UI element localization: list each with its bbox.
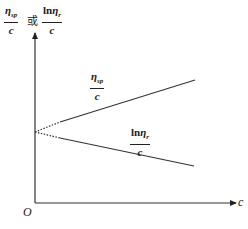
y-label-eta-sp-over-c: ηsp c [4, 4, 18, 36]
y-label-ln-eta-r-over-c: lnηr c [42, 4, 62, 36]
line-label-eta-sp-over-c: ηsp c [90, 70, 104, 102]
subscript-sp: sp [97, 77, 103, 85]
eta-sp-extrapolation [35, 122, 60, 132]
ln-prefix: ln [131, 126, 140, 138]
x-axis-label: c [238, 195, 243, 210]
subscript-r: r [58, 11, 61, 19]
origin-label: O [23, 205, 32, 220]
denominator-c: c [95, 89, 100, 102]
eta-sp-line [60, 80, 195, 122]
ln-prefix: ln [43, 4, 52, 16]
line-label-ln-eta-r-over-c: lnηr c [130, 126, 150, 158]
subscript-sp: sp [11, 11, 17, 19]
ln-eta-r-line [60, 138, 194, 166]
subscript-r: r [146, 133, 149, 141]
denominator-c: c [9, 23, 14, 36]
denominator-c: c [50, 23, 55, 36]
denominator-c: c [138, 145, 143, 158]
or-connector: 或 [27, 12, 38, 28]
ln-eta-r-extrapolation [35, 132, 60, 138]
diagram-canvas [0, 0, 248, 229]
